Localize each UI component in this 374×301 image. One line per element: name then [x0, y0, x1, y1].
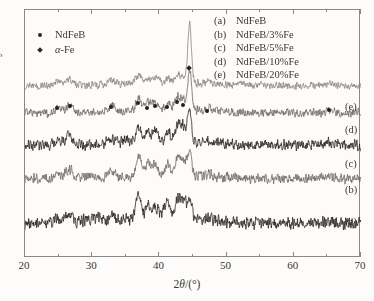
legend-tag-c: (c): [214, 41, 236, 55]
legend-tag-b: (b): [214, 28, 236, 42]
ndfeb-peak-marker-2: [109, 105, 113, 109]
legend-row-a: (a) NdFeB: [214, 14, 299, 28]
curve-tag-a: (a): [345, 216, 357, 227]
x-tick-label-50: 50: [220, 259, 231, 271]
legend-row-c: (c) NdFeB/5%Fe: [214, 41, 299, 55]
sample-legend: (a) NdFeB (b) NdFeB/3%Fe (c) NdFeB/5%Fe …: [214, 14, 299, 82]
legend-tag-a: (a): [214, 14, 236, 28]
legend-tag-d: (d): [214, 55, 236, 69]
ndfeb-peak-marker-7: [175, 100, 179, 104]
x-tick-label-60: 60: [287, 259, 298, 271]
curve-tag-e: (e): [345, 101, 357, 112]
diamond-marker-icon: [37, 47, 43, 53]
y-axis-label: Intensity/a.u.: [0, 0, 1, 92]
legend-item-alpha-fe: α-Fe: [38, 42, 85, 57]
x-tick-label-40: 40: [153, 259, 164, 271]
legend-item-alpha-fe-label: α-Fe: [55, 42, 75, 57]
legend-name-e: NdFeB/20%Fe: [236, 68, 299, 82]
curve-tag-b: (b): [345, 184, 357, 195]
legend-name-d: NdFeB/10%Fe: [236, 55, 299, 69]
legend-row-e: (e) NdFeB/20%Fe: [214, 68, 299, 82]
legend-name-c: NdFeB/5%Fe: [236, 41, 294, 55]
x-tick-label-70: 70: [355, 259, 366, 271]
xrd-figure: Intensity/a.u. 203040506070 2θ/(°) NdFeB…: [0, 0, 374, 301]
x-axis-label: 2θ/(°): [0, 278, 374, 290]
legend-tag-e: (e): [214, 68, 236, 82]
legend-name-b: NdFeB/3%Fe: [236, 28, 294, 42]
legend-item-ndfeb-label: NdFeB: [55, 27, 85, 42]
ndfeb-peak-marker-0: [55, 106, 59, 110]
legend-item-ndfeb: NdFeB: [38, 27, 85, 42]
curve-tag-d: (d): [345, 124, 357, 135]
ndfeb-peak-marker-1: [68, 104, 72, 108]
circle-marker-icon: [38, 33, 42, 37]
curve-tag-c: (c): [345, 158, 357, 169]
ndfeb-peak-marker-4: [145, 106, 149, 110]
phase-marker-legend: NdFeB α-Fe: [38, 27, 85, 57]
ndfeb-peak-marker-5: [153, 104, 157, 108]
legend-alpha-fe-text: -Fe: [61, 44, 75, 55]
x-tick-label-30: 30: [86, 259, 97, 271]
ndfeb-peak-marker-8: [181, 103, 185, 107]
legend-row-d: (d) NdFeB/10%Fe: [214, 55, 299, 69]
legend-row-b: (b) NdFeB/3%Fe: [214, 28, 299, 42]
x-axis-label-suffix: /(°): [185, 278, 200, 290]
legend-name-a: NdFeB: [236, 14, 266, 28]
x-tick-label-20: 20: [19, 259, 30, 271]
ndfeb-peak-marker-3: [136, 101, 140, 105]
